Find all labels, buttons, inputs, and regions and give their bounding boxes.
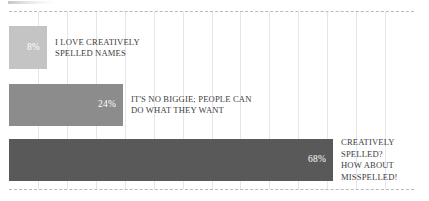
bar-segment: 24% bbox=[9, 84, 123, 126]
bar-segment: 68% bbox=[9, 139, 333, 181]
bar-category-label: IT'S NO BIGGIE; PEOPLE CAN DO WHAT THEY … bbox=[131, 94, 252, 117]
bars-group: 8% I LOVE CREATIVELY SPELLED NAMES 24% I… bbox=[9, 11, 414, 190]
bar-category-label: CREATIVELY SPELLED? HOW ABOUT MISSPELLED… bbox=[341, 137, 398, 183]
bar-row: 68% CREATIVELY SPELLED? HOW ABOUT MISSPE… bbox=[9, 139, 414, 181]
bar-row: 8% I LOVE CREATIVELY SPELLED NAMES bbox=[9, 26, 414, 69]
bar-value-label: 8% bbox=[27, 43, 40, 53]
bar-value-label: 68% bbox=[308, 155, 326, 165]
scan-artifact bbox=[8, 1, 54, 4]
bar-category-label: I LOVE CREATIVELY SPELLED NAMES bbox=[55, 36, 140, 59]
bar-value-label: 24% bbox=[98, 100, 116, 110]
plot-area: 8% I LOVE CREATIVELY SPELLED NAMES 24% I… bbox=[9, 11, 414, 190]
bar-segment: 8% bbox=[9, 26, 47, 69]
bar-row: 24% IT'S NO BIGGIE; PEOPLE CAN DO WHAT T… bbox=[9, 84, 414, 126]
bar-chart: 8% I LOVE CREATIVELY SPELLED NAMES 24% I… bbox=[0, 0, 429, 201]
